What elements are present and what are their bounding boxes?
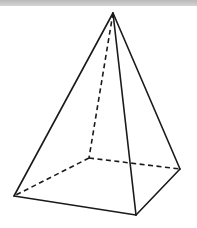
edge-apex-to-front-right (113, 13, 136, 215)
edge-front-right-to-back-right (136, 169, 180, 215)
hidden-edge-back-left-to-back-right (89, 158, 180, 169)
edge-front-left-to-front-right (14, 196, 136, 215)
hidden-edge-back-left-to-front-left (14, 158, 89, 196)
edge-apex-to-front-left (14, 13, 113, 196)
edge-apex-to-back-right (113, 13, 180, 169)
hidden-edges (14, 13, 180, 196)
square-pyramid-diagram (0, 0, 197, 228)
